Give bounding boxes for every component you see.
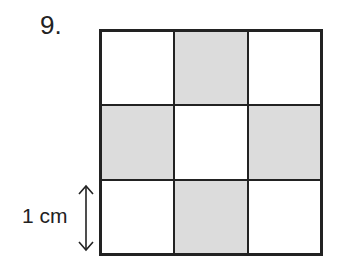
grid-cell-r2-c1-shaded: [101, 105, 174, 179]
problem-number: 9.: [40, 11, 62, 39]
grid-cell-r1-c1: [101, 31, 174, 105]
checker-grid: [99, 29, 323, 256]
grid-cell-r3-c3: [248, 180, 321, 254]
grid-cell-r2-c3-shaded: [248, 105, 321, 179]
grid-cell-r2-c2: [174, 105, 247, 179]
grid-cell-r3-c1: [101, 180, 174, 254]
double-arrow-icon: [78, 184, 96, 252]
dimension-label: 1 cm: [22, 204, 68, 228]
grid-cell-r3-c2-shaded: [174, 180, 247, 254]
grid-cell-r1-c2-shaded: [174, 31, 247, 105]
grid-cell-r1-c3: [248, 31, 321, 105]
